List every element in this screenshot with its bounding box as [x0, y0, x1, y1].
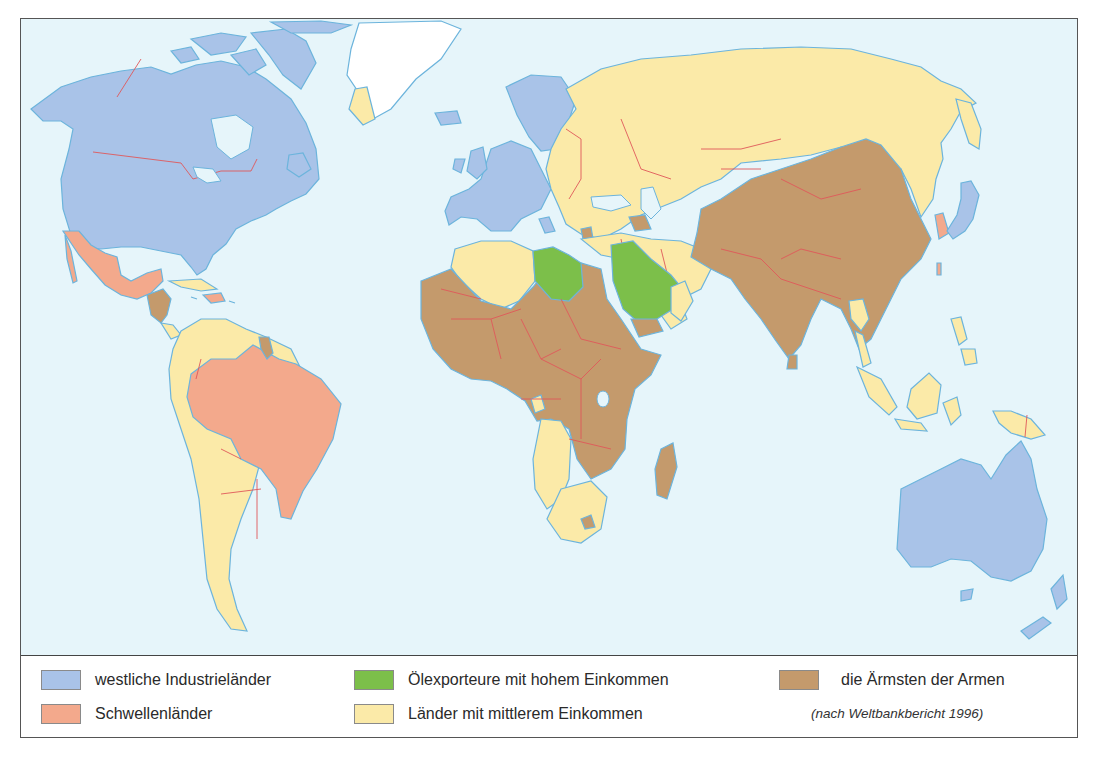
legend-label: westliche Industrieländer [95, 671, 271, 689]
legend-swatch-green [354, 670, 394, 690]
region-japan [947, 181, 979, 239]
legend-item-middle-income: Länder mit mittlerem Einkommen [354, 702, 643, 726]
legend-swatch-yellow [354, 704, 394, 724]
map-legend: westliche Industrieländer Schwellenlände… [21, 656, 1077, 737]
legend-label: Schwellenländer [95, 705, 212, 723]
legend-label: Ölexporteure mit hohem Einkommen [408, 671, 669, 689]
source-note: (nach Weltbankbericht 1996) [811, 706, 983, 721]
legend-swatch-blue [41, 670, 81, 690]
legend-item-emerging: Schwellenländer [41, 702, 212, 726]
region-oceania [897, 441, 1067, 639]
world-map: .wi { fill: #a9c3e8; stroke: #6cb4dc; st… [21, 19, 1077, 656]
legend-swatch-salmon [41, 704, 81, 724]
legend-swatch-brown [779, 670, 819, 690]
region-south-america [169, 319, 341, 631]
legend-label: die Ärmsten der Armen [841, 671, 1005, 689]
legend-item-oil-exporters: Ölexporteure mit hohem Einkommen [354, 668, 669, 692]
legend-item-western-industrial: westliche Industrieländer [41, 668, 271, 692]
legend-item-poorest: die Ärmsten der Armen [779, 668, 1005, 692]
legend-label: Länder mit mittlerem Einkommen [408, 705, 643, 723]
map-figure: .wi { fill: #a9c3e8; stroke: #6cb4dc; st… [20, 18, 1078, 738]
world-map-svg: .wi { fill: #a9c3e8; stroke: #6cb4dc; st… [21, 19, 1077, 655]
region-indonesia [857, 317, 1045, 439]
region-greenland [347, 21, 461, 125]
